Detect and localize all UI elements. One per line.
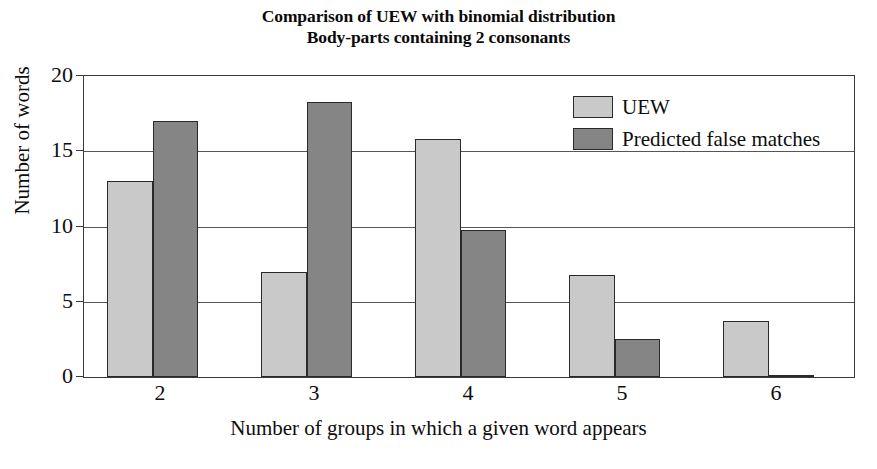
y-tick-label-10: 10 (51, 215, 73, 237)
x-axis-ticks: 23456 (83, 382, 855, 418)
y-tick-label-15: 15 (51, 139, 73, 161)
bar-predicted-group-4 (461, 230, 506, 377)
chart-legend: UEW Predicted false matches (573, 92, 820, 156)
y-tick-mark-10 (76, 226, 83, 227)
bar-uew-group-4 (415, 139, 460, 377)
gridline-y-10 (84, 227, 854, 228)
bar-predicted-group-6 (769, 375, 814, 377)
legend-item-uew: UEW (573, 92, 820, 122)
x-tick-label-5: 5 (617, 382, 628, 404)
legend-item-predicted-false-matches: Predicted false matches (573, 124, 820, 154)
bar-chart-figure: Comparison of UEW with binomial distribu… (0, 0, 877, 469)
y-tick-label-0: 0 (62, 365, 73, 387)
x-tick-label-6: 6 (771, 382, 782, 404)
legend-label-uew: UEW (622, 97, 670, 118)
legend-swatch-predicted-icon (573, 128, 613, 150)
bar-predicted-group-3 (307, 102, 352, 377)
chart-title-line-2: Body-parts containing 2 consonants (0, 27, 877, 48)
y-tick-mark-20 (76, 75, 83, 76)
bar-predicted-group-5 (615, 339, 660, 377)
bar-predicted-group-2 (153, 121, 198, 377)
x-tick-label-2: 2 (155, 382, 166, 404)
bar-uew-group-6 (723, 321, 768, 377)
x-axis-label: Number of groups in which a given word a… (0, 416, 877, 441)
chart-title-line-1: Comparison of UEW with binomial distribu… (0, 6, 877, 27)
x-tick-label-4: 4 (463, 382, 474, 404)
x-tick-label-3: 3 (309, 382, 320, 404)
y-tick-mark-5 (76, 301, 83, 302)
y-axis-label: Number of words (10, 41, 35, 241)
chart-title-block: Comparison of UEW with binomial distribu… (0, 6, 877, 47)
bar-uew-group-3 (261, 272, 306, 377)
legend-label-predicted-false-matches: Predicted false matches (622, 129, 820, 150)
y-tick-label-20: 20 (51, 64, 73, 86)
y-tick-mark-15 (76, 150, 83, 151)
legend-swatch-uew-icon (573, 96, 613, 118)
y-tick-label-5: 5 (62, 290, 73, 312)
y-tick-mark-0 (76, 376, 83, 377)
bar-uew-group-5 (569, 275, 614, 377)
bar-uew-group-2 (107, 181, 152, 377)
